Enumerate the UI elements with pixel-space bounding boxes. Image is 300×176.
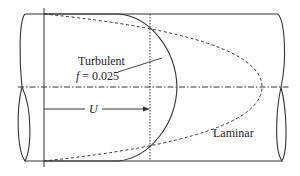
turbulent-label: Turbulent [78, 54, 126, 68]
velocity-label: U [89, 102, 99, 116]
laminar-label: Laminar [213, 126, 254, 140]
pipe-flow-diagram: Turbulent f = 0.025 U Laminar [0, 0, 300, 176]
friction-symbol: f [76, 69, 81, 83]
friction-value: = 0.025 [82, 69, 119, 83]
friction-factor-label: f = 0.025 [76, 69, 119, 83]
